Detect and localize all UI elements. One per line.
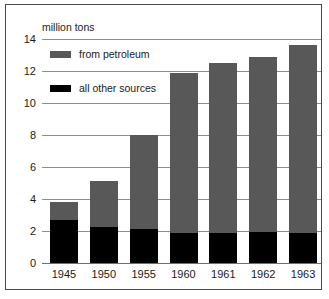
legend-item-other-sources: all other sources <box>50 83 210 94</box>
bar-stack: 1950 <box>90 181 118 263</box>
y-axis-tick-label: 0 <box>30 258 36 269</box>
y-axis-tick-label: 14 <box>24 34 36 45</box>
y-axis-tick-label: 8 <box>30 130 36 141</box>
bar-segment-petroleum <box>209 63 237 233</box>
bar-stack: 1963 <box>289 45 317 263</box>
legend-swatch-petroleum <box>50 51 71 58</box>
legend-label-other-sources: all other sources <box>79 83 156 94</box>
bar-stack: 1955 <box>130 135 158 263</box>
chart-frame: million tons 02468101214 194519501955196… <box>5 4 322 290</box>
bar-segment-petroleum <box>90 181 118 227</box>
bar-segment-petroleum <box>249 57 277 232</box>
chart-figure: million tons 02468101214 194519501955196… <box>0 0 329 299</box>
gridline <box>42 39 321 40</box>
legend-item-petroleum: from petroleum <box>50 49 210 60</box>
y-axis-tick-label: 4 <box>30 194 36 205</box>
y-axis-tick-label: 2 <box>30 226 36 237</box>
bar-segment-other-sources <box>170 233 198 263</box>
y-axis-tick-label: 6 <box>30 162 36 173</box>
x-axis-tick-label: 1963 <box>279 269 327 280</box>
chart-legend: from petroleum all other sources <box>50 49 210 117</box>
y-axis-title: million tons <box>42 21 95 33</box>
gridline <box>42 263 321 264</box>
bar-segment-other-sources <box>209 233 237 263</box>
y-axis-tick-label: 12 <box>24 66 36 77</box>
legend-swatch-other-sources <box>50 85 71 92</box>
bar-stack: 1961 <box>209 63 237 263</box>
bar-stack: 1962 <box>249 57 277 263</box>
bar-segment-other-sources <box>289 233 317 263</box>
bar-segment-petroleum <box>289 45 317 232</box>
bar-segment-other-sources <box>249 232 277 263</box>
bar-segment-other-sources <box>50 220 78 263</box>
legend-label-petroleum: from petroleum <box>79 49 150 60</box>
bar-segment-petroleum <box>50 202 78 220</box>
bar-segment-other-sources <box>130 229 158 263</box>
bar-segment-petroleum <box>130 135 158 229</box>
y-axis-tick-label: 10 <box>24 98 36 109</box>
bar-stack: 1945 <box>50 202 78 263</box>
bar-segment-other-sources <box>90 227 118 263</box>
